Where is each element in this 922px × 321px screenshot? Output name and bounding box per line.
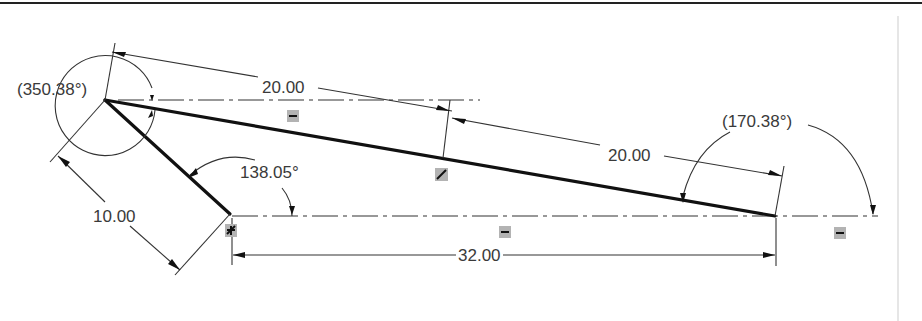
- arrowhead: [763, 252, 775, 258]
- sketch-canvas[interactable]: 20.00 20.00 10.00 138.05° (170.38°) (350…: [0, 0, 922, 321]
- arrowhead: [436, 105, 450, 111]
- angle-arc-170[interactable]: [808, 125, 873, 214]
- horizontal-constraint-icon[interactable]: [499, 226, 511, 238]
- dimension-angle-left-ref[interactable]: (350.38°): [17, 80, 87, 99]
- arrowhead: [233, 252, 245, 258]
- extension-line: [50, 100, 105, 162]
- dimension-line-slant-20: [452, 118, 600, 145]
- dimension-angle-right-ref[interactable]: (170.38°): [722, 112, 792, 131]
- arrowhead: [188, 168, 198, 178]
- arrowhead: [289, 206, 295, 215]
- arrowhead: [452, 118, 466, 124]
- dimension-left-length[interactable]: 10.00: [93, 207, 136, 226]
- angle-arc-138[interactable]: [282, 188, 292, 216]
- arrowhead: [870, 205, 876, 215]
- fixed-constraint-icon[interactable]: [225, 224, 237, 237]
- extension-line: [175, 214, 230, 275]
- dimension-bottom-length[interactable]: 32.00: [458, 246, 501, 265]
- dimension-line-slant-20: [664, 156, 782, 176]
- horizontal-constraint-icon[interactable]: [287, 110, 299, 122]
- horizontal-constraint-icon[interactable]: [834, 227, 846, 239]
- extension-line: [105, 43, 115, 100]
- dimension-slant-length[interactable]: 20.00: [608, 146, 651, 165]
- dimension-angle-bottom[interactable]: 138.05°: [240, 163, 299, 182]
- angle-arc-170[interactable]: [683, 132, 730, 196]
- arrowhead: [148, 110, 153, 118]
- parallel-constraint-icon[interactable]: [435, 168, 448, 181]
- dimension-top-length[interactable]: 20.00: [262, 78, 305, 97]
- arrowhead: [768, 170, 782, 176]
